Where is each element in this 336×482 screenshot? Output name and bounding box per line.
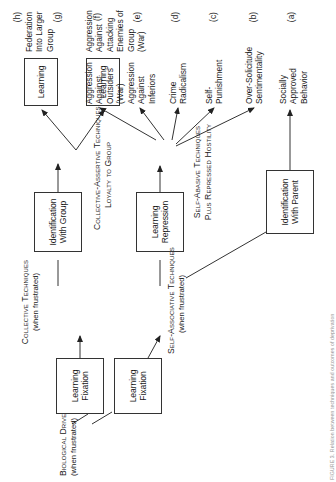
box-identification-with-parent[interactable]: Identification With Parent — [266, 170, 314, 234]
outcome-c: Self- Punishment — [204, 60, 225, 104]
box-learning-h[interactable]: Learning — [24, 58, 58, 106]
tag-a: (a) — [286, 7, 296, 27]
box-line1: Learning — [36, 66, 46, 99]
stage-line2: (when frustrated) — [177, 275, 186, 333]
outcome-line: Punishment — [214, 60, 224, 104]
box-line2: With Parent — [290, 179, 300, 226]
outcome-line: Into Larger — [34, 11, 44, 52]
arrow-fixation-lower — [148, 336, 160, 358]
root-label-line1: Biological Drives — [58, 410, 68, 476]
outcome-line: Federation — [24, 12, 34, 52]
box-line1: Learning — [128, 370, 138, 403]
tag-f: (f) — [92, 7, 102, 27]
box-line1: Learning — [150, 201, 160, 243]
box-line2: Repression — [160, 201, 170, 243]
box-learning-fixation-upper[interactable]: Learning Fixation — [56, 358, 104, 414]
tag-g: (g) — [52, 7, 62, 27]
box-learning-fixation-lower[interactable]: Learning Fixation — [114, 358, 162, 414]
arrow-to-b — [176, 108, 254, 146]
outcome-line: Group — [45, 29, 55, 52]
arrow-to-d — [172, 108, 178, 140]
outcome-line: Against — [136, 76, 146, 104]
line-to-idparent — [186, 232, 266, 278]
tag-e: (e) — [132, 7, 142, 27]
stage-self-abasive: Self-Abasive Techniques Plus Repressed H… — [192, 120, 213, 224]
box-line1: Learning — [70, 370, 80, 403]
arrow-to-e — [140, 108, 164, 140]
stage-line2: (when frustrated) — [31, 273, 40, 331]
outcome-line: Against — [94, 24, 104, 52]
outcome-e: Aggression Against Inferiors — [126, 62, 157, 104]
outcome-line: Aggression — [126, 62, 136, 104]
outcome-line: Aggression — [84, 62, 94, 104]
tag-h: (h) — [12, 7, 22, 27]
box-line2: With Group — [58, 199, 68, 246]
outcome-line: Over-Solicitude — [244, 47, 254, 104]
figure-page: Biological Drives (when frustrated) Lear… — [0, 0, 336, 482]
box-line2: Fixation — [80, 370, 90, 403]
figure-caption: FIGURE 3. Relation between techniques an… — [329, 313, 335, 480]
tag-d: (d) — [170, 7, 180, 27]
stage-line1: Collective-Assertive Techniques — [92, 106, 102, 230]
outcome-line: Attacking — [105, 18, 115, 52]
outcome-line: Crime — [168, 82, 178, 104]
outcome-line: Against — [94, 76, 104, 104]
outcome-line: Behavior — [299, 71, 309, 104]
root-label: Biological Drives (when frustrated) — [58, 410, 78, 476]
box-line2: Fixation — [138, 370, 148, 403]
stage-collective-techniques: Collective Techniques (when frustrated) — [20, 256, 40, 348]
outcome-line: Inferiors — [147, 74, 157, 104]
outcome-line: Approved — [288, 68, 298, 104]
arrow-to-learning-h — [42, 110, 76, 150]
outcome-h: Federation Into Larger Group — [24, 11, 55, 52]
tag-c: (c) — [208, 7, 218, 27]
outcome-f: Aggression Against Outsiders (War) — [84, 62, 126, 104]
stage-line2: Loyalty to Group — [103, 142, 113, 208]
outcome-b: Over-Solicitude Sentimentality — [244, 47, 265, 104]
outcome-line: Outsiders — [105, 68, 115, 104]
outcome-d: Crime Radicalism — [168, 63, 189, 104]
root-label-line2: (when frustrated) — [69, 418, 78, 476]
outcome-line: Radicalism — [178, 63, 188, 104]
diagram-canvas: Biological Drives (when frustrated) Lear… — [0, 0, 336, 482]
stage-collective-assertive: Collective-Assertive Techniques Loyalty … — [92, 120, 113, 230]
outcome-line: Group — [126, 29, 136, 52]
outcome-line: (War) — [136, 31, 146, 52]
rotated-figure-container: Biological Drives (when frustrated) Lear… — [0, 0, 336, 482]
outcome-line: Sentimentality — [254, 51, 264, 104]
box-line1: Identification — [280, 179, 290, 226]
box-identification-with-group[interactable]: Identification With Group — [34, 192, 82, 252]
outcome-line: (War) — [115, 83, 125, 104]
box-line1: Identification — [48, 199, 58, 246]
stage-line1: Self-Abasive Techniques — [192, 126, 202, 218]
box-learning-repression[interactable]: Learning Repression — [136, 192, 184, 252]
outcome-line: Self- — [204, 87, 214, 104]
stage-line1: Collective Techniques — [20, 260, 30, 344]
tag-b: (b) — [248, 7, 258, 27]
stage-self-associative-techniques: Self-Associative Techniques (when frustr… — [166, 254, 186, 354]
outcome-line: Socially — [278, 75, 288, 104]
stage-line2: Plus Repressed Hostility — [203, 124, 213, 220]
outcome-a: Socially Approved Behavior — [278, 68, 309, 104]
stage-line1: Self-Associative Techniques — [166, 247, 176, 354]
outcome-line: Enemies of — [115, 10, 125, 52]
